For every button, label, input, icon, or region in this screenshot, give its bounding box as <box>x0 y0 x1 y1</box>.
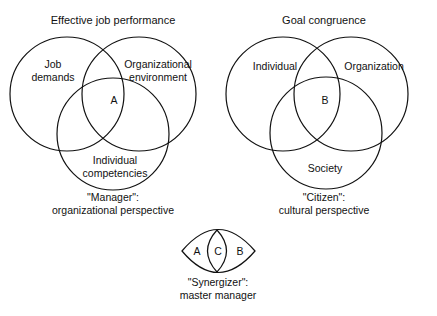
label-org-line2: environment <box>124 71 192 84</box>
synergizer-label-b: B <box>236 245 243 258</box>
intersection-b: B <box>321 94 328 107</box>
circle-job-demands <box>10 37 124 151</box>
label-organizational-environment: Organizational environment <box>124 58 192 84</box>
label-society: Society <box>308 162 342 175</box>
label-ind-line1: Individual <box>83 154 148 167</box>
citizen-caption-line2: cultural perspective <box>279 204 369 217</box>
label-organization: Organization <box>344 60 404 73</box>
synergizer-label-c: C <box>214 245 222 258</box>
label-job-demands-line2: demands <box>31 71 74 84</box>
intersection-a: A <box>110 94 117 107</box>
circle-organizational-environment <box>82 37 196 151</box>
label-individual-competencies: Individual competencies <box>83 154 148 180</box>
citizen-caption-line1: "Citizen": <box>279 191 369 204</box>
label-ind-line2: competencies <box>83 167 148 180</box>
citizen-title: Goal congruence <box>282 14 366 27</box>
synergizer-caption-line1: "Synergizer": <box>180 276 256 289</box>
manager-title: Effective job performance <box>51 14 176 27</box>
circle-organization <box>294 37 408 151</box>
citizen-caption: "Citizen": cultural perspective <box>279 191 369 217</box>
label-org-line1: Organizational <box>124 58 192 71</box>
manager-caption: "Manager": organizational perspective <box>52 191 174 217</box>
synergizer-caption: "Synergizer": master manager <box>180 276 256 302</box>
synergizer-label-a: A <box>193 245 200 258</box>
manager-caption-line2: organizational perspective <box>52 204 174 217</box>
synergizer-caption-line2: master manager <box>180 289 256 302</box>
label-job-demands-line1: Job <box>31 58 74 71</box>
manager-caption-line1: "Manager": <box>52 191 174 204</box>
label-individual: Individual <box>253 60 297 73</box>
venn-diagrams-canvas <box>0 0 437 316</box>
label-job-demands: Job demands <box>31 58 74 84</box>
